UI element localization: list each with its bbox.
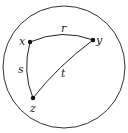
label-y: y [95, 34, 103, 47]
vertex-x [28, 40, 32, 44]
label-s: s [18, 63, 24, 76]
vertex-z [31, 96, 35, 100]
label-t: t [61, 67, 66, 80]
label-r: r [61, 22, 67, 35]
vertex-y [91, 38, 95, 42]
label-x: x [19, 35, 26, 48]
edge-s [27, 42, 33, 98]
edge-r [30, 34, 93, 42]
diagram-canvas: x y z r s t [0, 0, 128, 133]
label-z: z [29, 102, 36, 115]
